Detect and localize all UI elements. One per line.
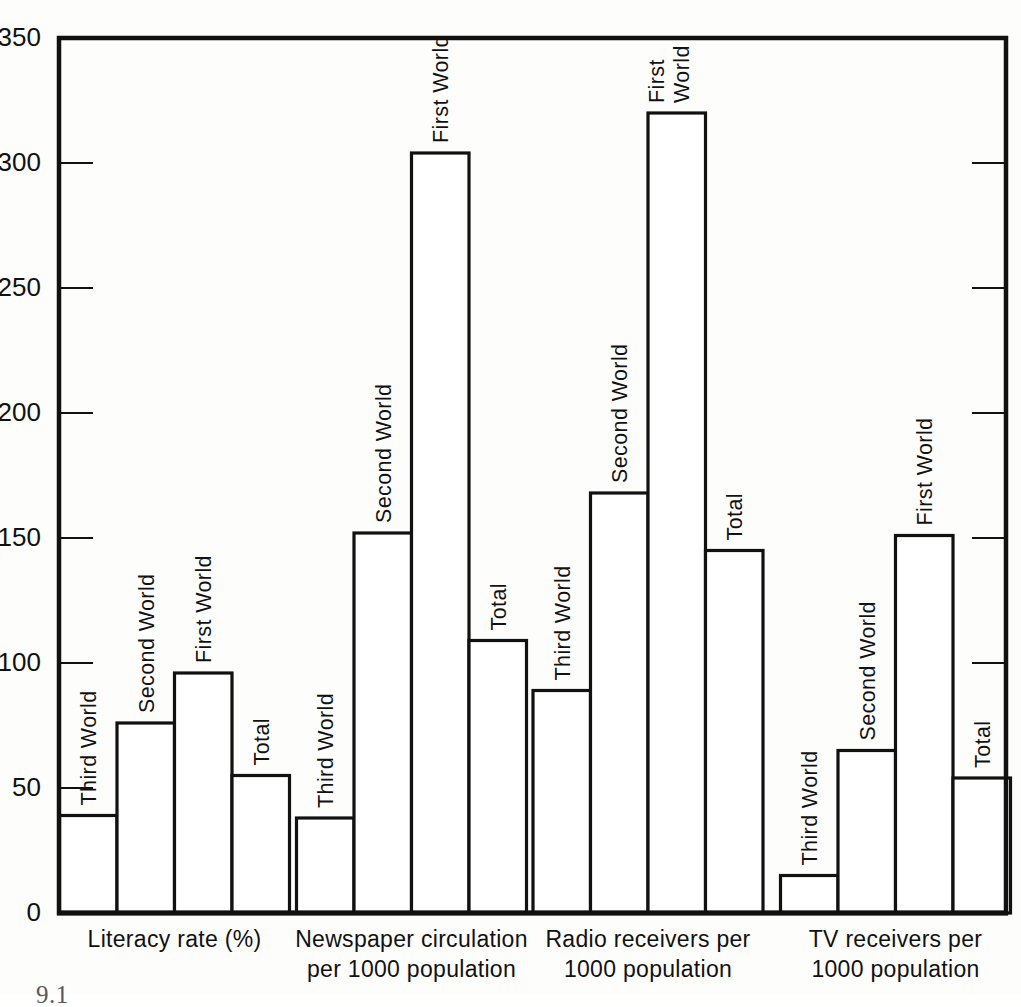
y-axis-tick-label: 350 <box>0 22 41 52</box>
bar-label: Second World <box>372 384 396 523</box>
bar-label: Total <box>723 493 747 540</box>
bar-label: First World <box>429 35 453 143</box>
bar-label: Third World <box>77 690 101 805</box>
y-axis-tick-label: 300 <box>0 147 41 177</box>
x-axis-group-label: Newspaper circulation <box>295 926 528 952</box>
bar <box>117 723 175 913</box>
bar-label: Second World <box>135 574 159 713</box>
bar-label: First <box>645 59 669 103</box>
bar <box>354 533 412 913</box>
bar-label: Total <box>487 583 511 630</box>
bar <box>412 153 470 913</box>
y-axis-tick-label: 0 <box>27 897 41 927</box>
bar-label: Total <box>971 721 995 768</box>
bar-label: First World <box>913 418 937 526</box>
bar <box>706 551 764 914</box>
bar <box>297 818 355 913</box>
x-axis-group-label: per 1000 population <box>307 956 516 982</box>
bar <box>232 776 290 914</box>
bar-label: Third World <box>798 750 822 865</box>
x-axis-group-label: Literacy rate (%) <box>88 926 262 952</box>
y-axis-tick-label: 100 <box>0 647 41 677</box>
figure-caption-partial: 9.1 <box>36 981 69 1007</box>
x-axis-group-label: 1000 population <box>564 956 732 982</box>
bar <box>838 751 896 914</box>
x-axis-group-labels: Literacy rate (%)Newspaper circulationpe… <box>88 926 983 982</box>
bar-label: Third World <box>314 693 338 808</box>
bar <box>781 876 839 914</box>
x-axis-group-label: TV receivers per <box>809 926 983 952</box>
x-axis-group-label: 1000 population <box>811 956 979 982</box>
bar-label: Third World <box>551 565 575 680</box>
bar <box>60 816 118 914</box>
bar <box>591 493 649 913</box>
bar <box>896 536 954 914</box>
bar-label: Second World <box>608 344 632 483</box>
y-axis-tick-label: 250 <box>0 272 41 302</box>
bar <box>953 778 1011 913</box>
bar <box>533 691 591 914</box>
bar <box>469 641 527 914</box>
x-axis-group-label: Radio receivers per <box>545 926 750 952</box>
bar-label: Second World <box>856 601 880 740</box>
bar-label: Total <box>250 718 274 765</box>
y-axis-tick-label: 200 <box>0 397 41 427</box>
bar <box>648 113 706 913</box>
bar-label: First World <box>192 555 216 663</box>
y-axis-tick-label: 150 <box>0 522 41 552</box>
bars-layer: Third WorldSecond WorldFirst WorldTotalT… <box>60 35 1011 913</box>
bar-label: World <box>670 45 694 103</box>
y-axis-tick-label: 50 <box>12 772 41 802</box>
bar <box>175 673 233 913</box>
